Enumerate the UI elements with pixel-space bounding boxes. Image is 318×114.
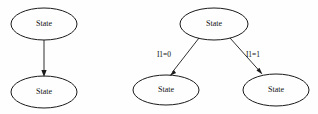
edge-label-input-zero: I1=0 [157,50,171,59]
state-node-left-top[interactable]: State [11,8,77,40]
state-node-label: State [268,85,284,94]
edge-label-input-one: I1=1 [246,50,260,59]
state-node-right-bottom-right[interactable]: State [243,74,309,106]
right-diagram: State I1=0 I1=1 State State [133,8,309,106]
state-transition-diagram-figure: State State State I1=0 [0,0,318,114]
diagram-canvas: State State State I1=0 [0,0,318,114]
state-node-label: State [206,19,222,28]
state-node-left-bottom[interactable]: State [11,76,77,108]
state-node-label: State [36,87,52,96]
state-node-right-top[interactable]: State [180,8,248,40]
transition-edge-left[interactable] [41,40,46,77]
transition-edge-input-zero[interactable]: I1=0 [157,38,199,76]
left-diagram: State State [11,8,77,108]
state-node-label: State [36,19,52,28]
state-node-label: State [158,85,174,94]
transition-edge-input-one[interactable]: I1=1 [230,38,263,75]
state-node-right-bottom-left[interactable]: State [133,75,199,105]
edge-line [173,38,200,72]
